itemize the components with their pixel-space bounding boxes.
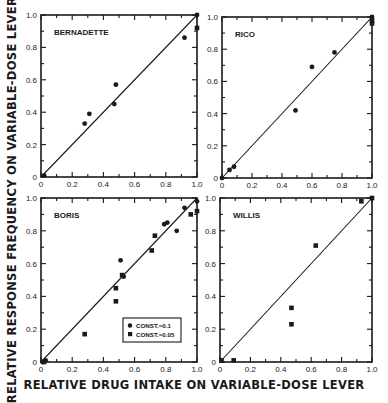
x-tick-label: 0.8 xyxy=(336,365,348,374)
legend-entry: CONST.=0.05 xyxy=(136,331,175,338)
data-point-circle xyxy=(332,50,337,55)
data-point-square xyxy=(370,196,375,201)
x-tick-label: 0 xyxy=(218,365,223,374)
data-point-circle xyxy=(118,258,123,263)
panel-boris: 00.20.40.60.81.000.20.40.60.81.0BORISCON… xyxy=(26,194,203,374)
data-point-circle xyxy=(195,13,200,18)
y-tick-label: 0 xyxy=(33,358,38,367)
data-point-square xyxy=(219,358,224,363)
panel-willis: 00.20.40.60.81.000.20.40.60.81.0WILLIS xyxy=(205,194,378,374)
y-tick-label: 0.4 xyxy=(207,110,219,119)
x-tick-label: 0.2 xyxy=(245,365,257,374)
data-point-circle xyxy=(227,168,232,173)
data-point-square xyxy=(231,358,236,363)
x-tick-label: 0.2 xyxy=(67,180,79,189)
x-tick-label: 1.0 xyxy=(366,365,378,374)
data-point-square xyxy=(195,26,200,31)
data-point-square xyxy=(42,360,47,365)
data-point-circle xyxy=(195,199,200,204)
x-tick-label: 0.6 xyxy=(306,181,318,190)
y-tick-label: 0 xyxy=(33,173,38,182)
y-tick-label: 0.4 xyxy=(26,292,38,301)
data-point-square xyxy=(370,21,375,26)
y-tick-label: 0 xyxy=(212,358,217,367)
x-tick-label: 0.6 xyxy=(129,365,141,374)
x-tick-label: 1.0 xyxy=(191,180,203,189)
data-point-circle xyxy=(232,164,237,169)
x-tick-label: 1.0 xyxy=(366,181,378,190)
y-tick-label: 0.6 xyxy=(205,260,217,269)
y-tick-label: 0 xyxy=(214,174,219,183)
x-tick-label: 0.2 xyxy=(246,181,258,190)
data-point-square xyxy=(153,233,158,238)
data-point-square xyxy=(120,273,125,278)
y-tick-label: 0.8 xyxy=(26,227,38,236)
x-tick-label: 0.4 xyxy=(276,181,288,190)
y-tick-label: 0.6 xyxy=(26,260,38,269)
x-tick-label: 0.4 xyxy=(98,365,110,374)
panel-title: RICO xyxy=(235,30,255,39)
y-tick-label: 0.2 xyxy=(207,142,219,151)
data-point-circle xyxy=(165,220,170,225)
x-tick-label: 0.8 xyxy=(160,180,172,189)
panel-title: WILLIS xyxy=(233,211,261,220)
y-tick-label: 0.2 xyxy=(26,325,38,334)
data-point-square xyxy=(149,248,154,253)
x-tick-label: 0 xyxy=(39,365,44,374)
data-point-square xyxy=(188,212,193,217)
panel-title: BORIS xyxy=(54,211,80,220)
panel-title: BERNADETTE xyxy=(54,28,109,37)
y-tick-label: 0.8 xyxy=(205,227,217,236)
data-point-circle xyxy=(220,176,225,181)
y-tick-label: 0.4 xyxy=(205,292,217,301)
x-tick-label: 0.8 xyxy=(160,365,172,374)
y-tick-label: 0.2 xyxy=(26,141,38,150)
y-tick-label: 0.2 xyxy=(205,325,217,334)
data-point-square xyxy=(114,286,119,291)
x-tick-label: 0.2 xyxy=(67,365,79,374)
y-tick-label: 0.6 xyxy=(207,77,219,86)
data-point-square xyxy=(195,209,200,214)
data-point-circle xyxy=(174,228,179,233)
x-axis-label: RELATIVE DRUG INTAKE ON VARIABLE-DOSE LE… xyxy=(0,378,388,392)
x-tick-label: 0.6 xyxy=(129,180,141,189)
data-point-circle xyxy=(42,173,47,178)
data-point-circle xyxy=(182,205,187,210)
identity-line xyxy=(41,15,197,177)
x-tick-label: 0.4 xyxy=(275,365,287,374)
y-tick-label: 0.8 xyxy=(207,45,219,54)
x-tick-label: 0.6 xyxy=(306,365,318,374)
identity-line xyxy=(220,198,372,362)
panel-bernadette: 00.20.40.60.81.000.20.40.60.81.0BERNADET… xyxy=(26,11,203,189)
y-tick-label: 1.0 xyxy=(26,11,38,20)
panel-rico: 00.20.40.60.81.000.20.40.60.81.0RICO xyxy=(207,13,378,190)
data-point-circle xyxy=(87,111,92,116)
data-point-square xyxy=(359,199,364,204)
y-tick-label: 0.4 xyxy=(26,108,38,117)
y-tick-label: 1.0 xyxy=(207,13,219,22)
y-tick-label: 0.6 xyxy=(26,76,38,85)
y-axis-label-wrap: RELATIVE RESPONSE FREQUENCY ON VARIABLE-… xyxy=(2,40,22,360)
x-tick-label: 0 xyxy=(39,180,44,189)
legend: CONST.=0.1CONST.=0.05 xyxy=(123,318,181,342)
legend-entry: CONST.=0.1 xyxy=(136,322,171,329)
legend-square-icon xyxy=(128,332,132,336)
data-point-circle xyxy=(182,35,187,40)
y-tick-label: 1.0 xyxy=(205,194,217,203)
y-tick-label: 1.0 xyxy=(26,194,38,203)
y-axis-label: RELATIVE RESPONSE FREQUENCY ON VARIABLE-… xyxy=(5,0,19,403)
data-point-square xyxy=(289,306,294,311)
data-point-circle xyxy=(113,82,118,87)
data-point-circle xyxy=(293,108,298,113)
data-point-circle xyxy=(112,102,117,107)
y-tick-label: 0.8 xyxy=(26,43,38,52)
legend-circle-icon xyxy=(128,323,132,327)
x-tick-label: 1.0 xyxy=(191,365,203,374)
data-point-square xyxy=(313,243,318,248)
identity-line xyxy=(222,17,372,178)
data-point-square xyxy=(289,322,294,327)
x-tick-label: 0 xyxy=(220,181,225,190)
data-point-circle xyxy=(310,65,315,70)
x-tick-label: 0.8 xyxy=(336,181,348,190)
